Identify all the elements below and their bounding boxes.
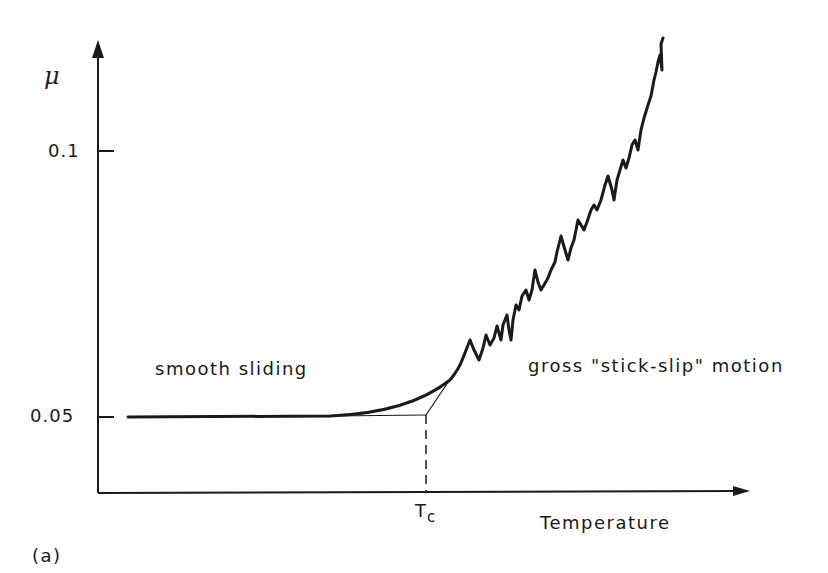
x-axis-arrow-icon xyxy=(733,486,750,496)
tc-label-main: T xyxy=(415,500,427,521)
panel-label: (a) xyxy=(32,545,62,566)
region-label-smooth-sliding: smooth sliding xyxy=(155,358,308,379)
x-axis-label: Temperature xyxy=(540,512,671,533)
y-axis-arrow-icon xyxy=(92,40,104,58)
y-axis-label: μ xyxy=(44,62,60,90)
y-tick-label-0-05: 0.05 xyxy=(30,405,74,426)
y-tick-label-0-1: 0.1 xyxy=(48,140,80,161)
friction-temperature-diagram xyxy=(0,0,828,573)
tc-label: Tc xyxy=(415,500,436,526)
tc-label-subscript: c xyxy=(427,508,436,526)
x-axis xyxy=(98,491,740,493)
region-label-stick-slip: gross "stick-slip" motion xyxy=(528,355,784,376)
